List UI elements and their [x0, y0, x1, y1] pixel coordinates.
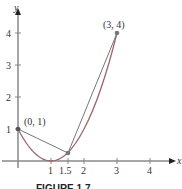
- y-tick-3: 3: [6, 60, 11, 71]
- x-tick-1-5: 1.5: [59, 165, 72, 176]
- x-tick-1: 1: [48, 165, 53, 176]
- figure-caption: FIGURE 1.7: [36, 183, 91, 189]
- x-axis-arrow-icon: [169, 158, 176, 164]
- point-label-3-4: (3, 4): [103, 19, 125, 31]
- point-0-1: [16, 127, 21, 132]
- y-tick-2: 2: [6, 92, 11, 103]
- x-tick-3: 3: [114, 165, 119, 176]
- figure-graph: 1 2 3 4 1 1.5 2 3 4 y x (0, 1) (3, 4) FI…: [0, 0, 182, 189]
- y-axis-label: y: [13, 2, 19, 13]
- y-tick-4: 4: [6, 28, 11, 39]
- x-tick-4: 4: [147, 165, 152, 176]
- point-3-4: [115, 31, 120, 36]
- x-tick-2: 2: [81, 165, 86, 176]
- point-1-5: [66, 151, 71, 156]
- secant-line-right: [68, 33, 117, 153]
- point-label-0-1: (0, 1): [24, 116, 46, 128]
- x-axis-label: x: [176, 155, 182, 166]
- parabola-curve: [18, 33, 117, 161]
- y-tick-1: 1: [6, 124, 11, 135]
